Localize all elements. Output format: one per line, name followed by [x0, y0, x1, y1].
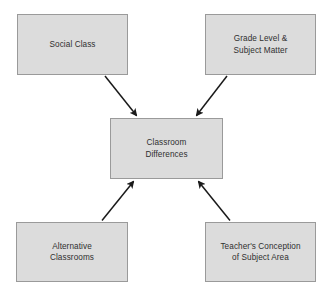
- arrow-grade-level-to-center: [197, 76, 228, 116]
- node-grade-level-subject-matter: Grade Level & Subject Matter: [205, 14, 316, 75]
- node-grade-level-subject-matter-label: Grade Level & Subject Matter: [231, 33, 291, 56]
- node-classroom-differences: Classroom Differences: [110, 118, 223, 179]
- concept-diagram: Social Class Grade Level & Subject Matte…: [0, 0, 332, 299]
- node-classroom-differences-label: Classroom Differences: [142, 137, 190, 160]
- node-alternative-classrooms: Alternative Classrooms: [16, 222, 128, 282]
- node-alternative-classrooms-label: Alternative Classrooms: [47, 241, 97, 264]
- node-social-class: Social Class: [17, 14, 128, 75]
- node-teachers-conception-of-subject-area: Teacher's Conception of Subject Area: [205, 222, 316, 282]
- arrow-teachers-conception-to-center: [199, 182, 231, 221]
- node-social-class-label: Social Class: [46, 39, 98, 51]
- arrow-social-class-to-center: [105, 76, 137, 116]
- arrow-alternative-classrooms-to-center: [102, 182, 134, 221]
- node-teachers-conception-of-subject-area-label: Teacher's Conception of Subject Area: [217, 241, 303, 264]
